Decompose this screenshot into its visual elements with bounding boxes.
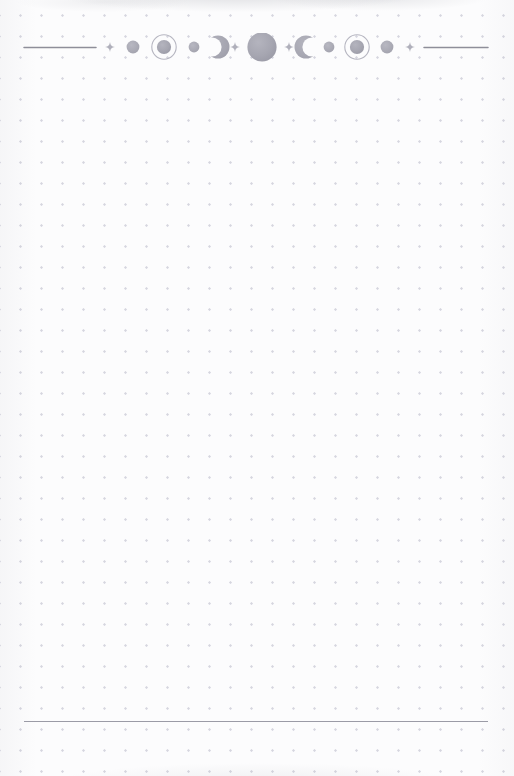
footer-rule: [24, 721, 488, 722]
moon-ringed-right-core: [350, 40, 364, 54]
moon-full-center: [247, 33, 276, 62]
sparkle-right-outer-icon: [405, 42, 415, 52]
dot-grid-background: [0, 0, 514, 776]
moon-dot-right: [324, 42, 335, 53]
moon-dot-left: [189, 42, 200, 53]
crescent-waning-icon: [198, 33, 232, 63]
sparkle-left-outer-icon: [105, 42, 115, 52]
journal-page: [0, 0, 514, 776]
moon-ringed-left-core: [157, 40, 171, 54]
header-lunar-ornament: [0, 33, 514, 63]
moon-small-right: [381, 41, 394, 54]
moon-small-left: [127, 41, 140, 54]
crescent-waxing-icon: [292, 33, 326, 63]
